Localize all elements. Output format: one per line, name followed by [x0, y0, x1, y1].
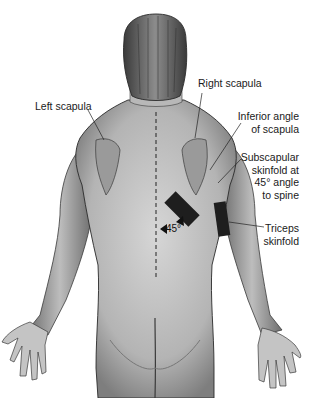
subscapular-skinfold-label: Subscapular skinfold at 45° angle to spi…	[241, 151, 299, 201]
subscapular-line3: 45° angle	[241, 176, 299, 189]
angle-45-label: 45°	[166, 223, 181, 234]
triceps-line1: Triceps	[263, 222, 299, 235]
left-scapula-label: Left scapula	[35, 100, 92, 113]
skinfold-diagram: Left scapula Right scapula Inferior angl…	[0, 0, 313, 398]
head	[123, 14, 186, 101]
subscapular-line4: to spine	[241, 189, 299, 202]
subscapular-line2: skinfold at	[241, 164, 299, 177]
inferior-angle-line1: Inferior angle	[238, 110, 299, 123]
triceps-line2: skinfold	[263, 235, 299, 248]
inferior-angle-label: Inferior angle of scapula	[238, 110, 299, 135]
right-scapula-label: Right scapula	[198, 77, 262, 90]
inferior-angle-line2: of scapula	[238, 123, 299, 136]
triceps-skinfold-label: Triceps skinfold	[263, 222, 299, 247]
subscapular-line1: Subscapular	[241, 151, 299, 164]
